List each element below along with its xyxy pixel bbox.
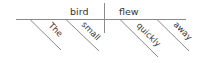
subject-word: bird	[70, 6, 88, 17]
modifier-word-away: away	[172, 19, 195, 42]
modifier-word-the: The	[46, 20, 65, 39]
modifier-word-quickly: quickly	[135, 20, 163, 48]
modifier-word-small: small	[80, 19, 103, 42]
sentence-diagram: bird flew The small quickly away	[0, 0, 203, 63]
verb-word: flew	[119, 6, 139, 17]
